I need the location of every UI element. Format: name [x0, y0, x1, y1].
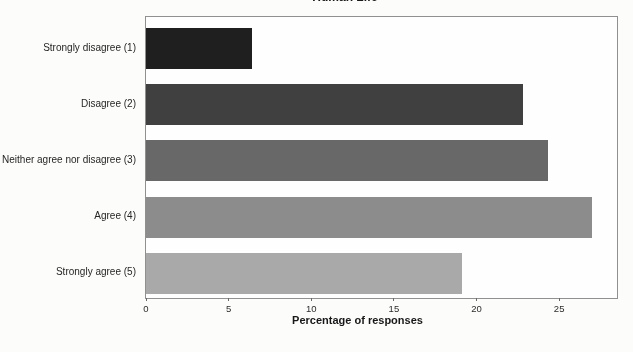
category-label: Strongly agree (5) [0, 266, 136, 278]
chart-title: Human Life [145, 0, 545, 4]
x-axis-label: Percentage of responses [122, 314, 593, 326]
x-tick-mark [476, 298, 477, 301]
bar [146, 84, 523, 125]
bar [146, 140, 548, 181]
plot-area: 0510152025 [145, 16, 618, 299]
x-tick-mark [146, 298, 147, 301]
category-label: Agree (4) [0, 210, 136, 222]
x-tick-label: 25 [544, 303, 574, 314]
x-tick-label: 5 [214, 303, 244, 314]
bar [146, 28, 252, 69]
x-tick-label: 0 [131, 303, 161, 314]
x-tick-label: 10 [296, 303, 326, 314]
x-tick-mark [228, 298, 229, 301]
bar [146, 197, 592, 238]
x-tick-mark [311, 298, 312, 301]
category-label: Disagree (2) [0, 98, 136, 110]
x-tick-label: 15 [379, 303, 409, 314]
x-tick-mark [559, 298, 560, 301]
bar-chart-figure: Human Life Strongly disagree (1)Disagree… [0, 0, 633, 352]
bar [146, 253, 462, 294]
y-axis-category-labels: Strongly disagree (1)Disagree (2)Neither… [0, 16, 141, 297]
x-tick-label: 20 [462, 303, 492, 314]
x-tick-mark [393, 298, 394, 301]
category-label: Neither agree nor disagree (3) [0, 154, 136, 166]
category-label: Strongly disagree (1) [0, 42, 136, 54]
